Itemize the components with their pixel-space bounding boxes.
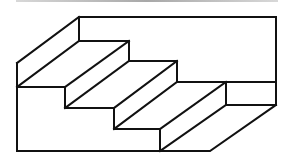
step1-tread-diagonal bbox=[17, 41, 79, 87]
left-top-diagonal bbox=[17, 17, 79, 63]
step4-top-diagonal bbox=[160, 82, 226, 129]
step2-tread-diagonal bbox=[65, 61, 129, 108]
step3-tread-diagonal bbox=[114, 82, 177, 129]
step4-tread-diagonal bbox=[160, 105, 226, 151]
step3-top-diagonal bbox=[114, 61, 177, 108]
front-outline bbox=[17, 63, 276, 151]
step2-top-diagonal bbox=[65, 41, 129, 87]
schroeder-stairs-drawing bbox=[0, 0, 294, 166]
